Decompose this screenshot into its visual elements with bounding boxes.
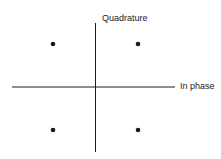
constellation-point-upper-right	[136, 42, 141, 47]
in-phase-axis-label: In phase	[180, 82, 215, 91]
constellation-point-lower-right	[136, 128, 141, 133]
constellation-point-upper-left	[51, 42, 56, 47]
constellation-point-lower-left	[51, 128, 56, 133]
constellation-diagram	[0, 0, 221, 159]
quadrature-axis-label: Quadrature	[102, 14, 148, 23]
